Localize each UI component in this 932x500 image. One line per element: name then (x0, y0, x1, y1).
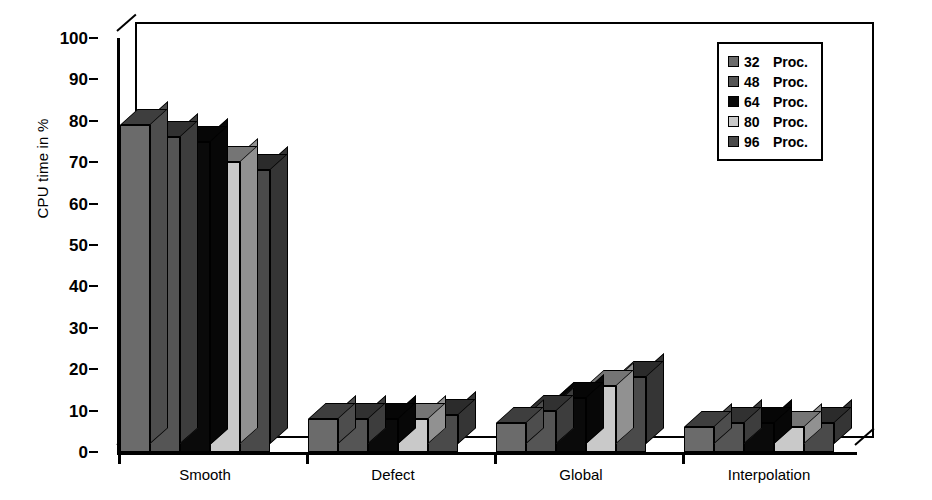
bar (684, 427, 714, 452)
legend-swatch-icon (728, 116, 739, 127)
legend: 32Proc.48Proc.64Proc.80Proc.96Proc. (717, 42, 823, 161)
legend-unit-label: Proc. (773, 134, 808, 150)
legend-item: 96Proc. (728, 132, 808, 151)
y-tick-label: 40 (69, 278, 88, 295)
legend-item: 32Proc. (728, 52, 808, 71)
y-tick-label: 100 (60, 30, 88, 47)
x-tick-mark (494, 455, 497, 464)
y-tick-mark (89, 120, 98, 122)
y-tick-label: 10 (69, 402, 88, 419)
legend-proc-count: 80 (744, 114, 764, 130)
x-tick-mark (118, 455, 121, 464)
legend-swatch-icon (728, 96, 739, 107)
depth-edge-top-left (116, 14, 136, 32)
x-tick-mark (682, 455, 685, 464)
bar (496, 423, 526, 452)
bar-front-face (496, 423, 526, 452)
legend-item: 64Proc. (728, 92, 808, 111)
legend-unit-label: Proc. (773, 114, 808, 130)
back-wall-top-edge (135, 22, 874, 24)
y-tick-mark (89, 285, 98, 287)
legend-swatch-icon (728, 56, 739, 67)
x-axis-line (117, 452, 857, 455)
x-category-label: Smooth (179, 466, 231, 483)
y-axis-title: CPU time in % (34, 69, 51, 269)
legend-unit-label: Proc. (773, 54, 808, 70)
x-category-label: Global (559, 466, 602, 483)
bar-chart: CPU time in % 0102030405060708090100 Smo… (0, 0, 932, 500)
bar-front-face (684, 427, 714, 452)
legend-proc-count: 48 (744, 74, 764, 90)
x-category-label: Interpolation (728, 466, 811, 483)
legend-proc-count: 64 (744, 94, 764, 110)
legend-unit-label: Proc. (773, 74, 808, 90)
y-tick-mark (89, 161, 98, 163)
x-category-label: Defect (371, 466, 414, 483)
legend-proc-count: 96 (744, 134, 764, 150)
y-tick-mark (89, 451, 98, 453)
y-tick-label: 90 (69, 71, 88, 88)
y-tick-mark (89, 327, 98, 329)
x-tick-mark (306, 455, 309, 464)
bar-side-face (210, 118, 228, 444)
y-tick-mark (89, 244, 98, 246)
bar-front-face (120, 125, 150, 452)
y-tick-mark (89, 78, 98, 80)
y-tick-label: 70 (69, 154, 88, 171)
y-tick-label: 20 (69, 361, 88, 378)
y-tick-mark (89, 368, 98, 370)
bar-side-face (150, 101, 168, 444)
y-tick-label: 0 (79, 444, 88, 461)
y-axis-tick-labels: 0102030405060708090100 (52, 0, 98, 500)
bar-side-face (240, 138, 258, 444)
back-wall-right-edge (872, 22, 874, 438)
y-tick-mark (89, 37, 98, 39)
legend-unit-label: Proc. (773, 94, 808, 110)
legend-swatch-icon (728, 76, 739, 87)
bar-side-face (270, 147, 288, 444)
legend-proc-count: 32 (744, 54, 764, 70)
y-tick-label: 50 (69, 237, 88, 254)
bar-front-face (308, 419, 338, 452)
y-tick-label: 80 (69, 112, 88, 129)
y-tick-mark (89, 410, 98, 412)
y-tick-label: 60 (69, 195, 88, 212)
bar (308, 419, 338, 452)
y-tick-mark (89, 203, 98, 205)
legend-item: 80Proc. (728, 112, 808, 131)
bar-side-face (180, 113, 198, 444)
legend-swatch-icon (728, 136, 739, 147)
y-tick-label: 30 (69, 319, 88, 336)
bar (120, 125, 150, 452)
legend-item: 48Proc. (728, 72, 808, 91)
